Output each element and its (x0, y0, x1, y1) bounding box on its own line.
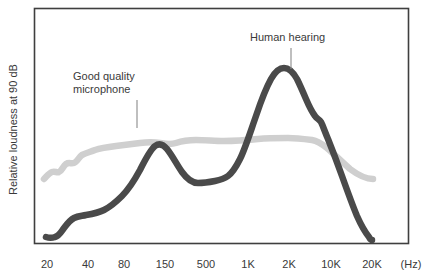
x-tick-label-1k: 1K (241, 258, 255, 270)
annotation-human-hearing-line1: Human hearing (250, 31, 325, 43)
x-tick-label-500: 500 (197, 258, 215, 270)
x-tick-label-20k: 20K (362, 258, 382, 270)
x-axis-unit-label: (Hz) (401, 258, 422, 270)
x-tick-label-150: 150 (156, 258, 174, 270)
x-tick-label-40: 40 (82, 258, 94, 270)
x-tick-label-2k: 2K (282, 258, 296, 270)
frequency-response-chart: Good quality microphone Human hearing 20… (0, 0, 428, 274)
x-tick-label-20: 20 (41, 258, 53, 270)
x-axis-tick-labels: 20 40 80 150 500 1K 2K 10K 20K (Hz) (41, 258, 422, 270)
annotation-microphone-line2: microphone (73, 83, 130, 95)
y-axis-label: Relative loudness at 90 dB (7, 64, 19, 195)
chart-page: Good quality microphone Human hearing 20… (0, 0, 428, 274)
x-tick-label-80: 80 (118, 258, 130, 270)
annotation-microphone-line1: Good quality (73, 70, 135, 82)
x-tick-label-10k: 10K (321, 258, 341, 270)
